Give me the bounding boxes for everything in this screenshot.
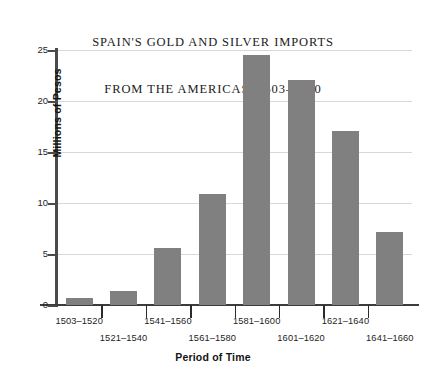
- y-tick-label-20: 20: [18, 96, 48, 106]
- x-axis-tick-labels: 1503–15201521–15401541–15601561–15801581…: [0, 316, 426, 348]
- y-tick-mark-0: [48, 305, 55, 307]
- bar-1521–1540: [110, 291, 137, 305]
- y-tick-mark-10: [48, 203, 55, 205]
- x-tick-label-1541–1560: 1541–1560: [132, 316, 204, 326]
- bar-chart-figure: SPAIN'S GOLD AND SILVER IMPORTS FROM THE…: [0, 0, 426, 374]
- x-axis-title: Period of Time: [0, 351, 426, 363]
- y-tick-label-15: 15: [18, 147, 48, 157]
- y-axis-tick-labels: 0510152025: [16, 50, 48, 305]
- x-tick-label-1521–1540: 1521–1540: [88, 333, 160, 343]
- x-tick-label-1641–1660: 1641–1660: [354, 333, 426, 343]
- y-tick-mark-5: [48, 254, 55, 256]
- y-tick-label-0: 0: [18, 300, 48, 310]
- x-tick-label-1581–1600: 1581–1600: [221, 316, 293, 326]
- bar-series: [57, 50, 412, 305]
- x-tick-label-1621–1640: 1621–1640: [309, 316, 381, 326]
- bar-1581–1600: [243, 55, 270, 305]
- y-tick-label-25: 25: [18, 45, 48, 55]
- x-tick-label-1601–1620: 1601–1620: [265, 333, 337, 343]
- bar-1641–1660: [376, 232, 403, 305]
- bar-1503–1520: [66, 298, 93, 305]
- y-tick-label-10: 10: [18, 198, 48, 208]
- bar-1561–1580: [199, 194, 226, 305]
- chart-title-line-1: SPAIN'S GOLD AND SILVER IMPORTS: [0, 35, 426, 51]
- bar-1601–1620: [288, 80, 315, 305]
- bar-1621–1640: [332, 131, 359, 305]
- y-tick-label-5: 5: [18, 249, 48, 259]
- x-tick-label-1561–1580: 1561–1580: [176, 333, 248, 343]
- x-tick-label-1503–1520: 1503–1520: [43, 316, 115, 326]
- bar-1541–1560: [154, 248, 181, 305]
